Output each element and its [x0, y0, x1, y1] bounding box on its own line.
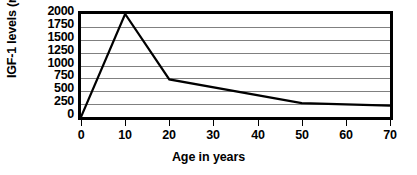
y-axis-tick-label: 1750 — [26, 18, 74, 30]
y-axis-tick-label: 500 — [26, 82, 74, 94]
x-axis-tick-mark — [125, 120, 126, 126]
x-axis-tick-mark — [302, 120, 303, 126]
y-axis-tick-labels: 025050075010001250150017502000 — [26, 4, 74, 122]
x-axis-title: Age in years — [0, 150, 417, 164]
plot-inner — [81, 14, 390, 117]
x-axis-tick-label: 0 — [61, 128, 101, 142]
data-series-line — [81, 14, 390, 117]
x-axis-tick-mark — [81, 120, 82, 126]
x-axis-tick-mark — [258, 120, 259, 126]
y-axis-tick-label: 1000 — [26, 57, 74, 69]
x-axis-tick-mark — [390, 120, 391, 126]
plot-area — [78, 11, 393, 120]
series-path — [81, 14, 390, 117]
y-axis-title: IGF-1 levels (mcg) — [5, 0, 23, 86]
igf1-line-chart: IGF-1 levels (mcg) 025050075010001250150… — [0, 0, 417, 175]
x-axis-tick-label: 10 — [105, 128, 145, 142]
x-axis-tick-label: 30 — [193, 128, 233, 142]
x-axis-tick-mark — [213, 120, 214, 126]
x-axis-tick-label: 70 — [370, 128, 410, 142]
y-axis-tick-label: 0 — [26, 108, 74, 120]
y-axis-tick-label: 1250 — [26, 44, 74, 56]
x-axis-tick-label: 20 — [149, 128, 189, 142]
x-axis-tick-mark — [346, 120, 347, 126]
x-axis-tick-label: 40 — [238, 128, 278, 142]
y-axis-tick-label: 2000 — [26, 5, 74, 17]
x-axis-tick-mark — [169, 120, 170, 126]
y-axis-tick-label: 250 — [26, 95, 74, 107]
x-axis-tick-label: 50 — [282, 128, 322, 142]
x-axis-tick-label: 60 — [326, 128, 366, 142]
y-axis-tick-label: 750 — [26, 69, 74, 81]
y-axis-tick-label: 1500 — [26, 31, 74, 43]
